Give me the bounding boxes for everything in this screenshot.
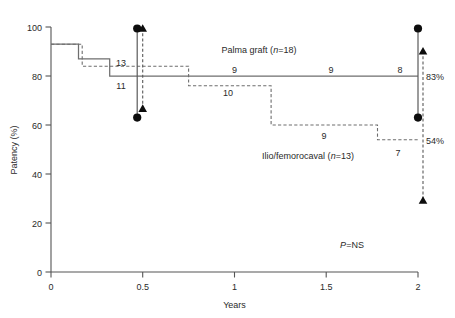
y-tick-label-0: 0 [37, 268, 42, 278]
x-tick-label-1p5: 1.5 [320, 282, 333, 292]
x-tick-label-0: 0 [48, 282, 53, 292]
errorbar-palma-2 [414, 24, 422, 121]
marker-triangle-ilio-0p5-lower [138, 104, 147, 112]
p-value-rest: =NS [346, 240, 364, 250]
y-tick-label-80: 80 [32, 72, 42, 82]
kaplan-meier-patency-figure: 100 80 60 40 20 0 Patency (%) 0 0.5 1 1.… [0, 0, 455, 318]
x-tick-label-0p5: 0.5 [136, 282, 149, 292]
at-risk-ilio-2: 10 [223, 88, 233, 98]
endpoint-label-palma: 83% [426, 72, 444, 82]
marker-triangle-ilio-2-lower [419, 196, 428, 204]
at-risk-palma-3: 9 [328, 65, 333, 75]
at-risk-palma-4: 8 [397, 65, 402, 75]
y-tick-label-20: 20 [32, 219, 42, 229]
y-axis-title: Patency (%) [9, 125, 19, 174]
x-axis: 0 0.5 1 1.5 2 Years [48, 272, 420, 310]
ilio-label-prefix: Ilio/femorocaval ( [262, 151, 331, 161]
chart-canvas: 100 80 60 40 20 0 Patency (%) 0 0.5 1 1.… [0, 0, 455, 318]
at-risk-ilio-3: 9 [321, 131, 326, 141]
palma-label-prefix: Palma graft ( [222, 45, 274, 55]
palma-label-suffix: =18) [278, 45, 296, 55]
x-axis-title: Years [223, 300, 246, 310]
x-tick-label-2: 2 [415, 282, 420, 292]
at-risk-numbers-ilio: 11 10 9 7 [116, 81, 400, 158]
errorbar-palma-0p5 [133, 24, 141, 121]
ilio-label-suffix: =13) [336, 151, 354, 161]
at-risk-palma-2: 9 [232, 65, 237, 75]
y-tick-label-100: 100 [27, 23, 42, 33]
series-label-ilio-femorocaval: Ilio/femorocaval (n=13) [262, 151, 354, 161]
x-tick-label-1: 1 [232, 282, 237, 292]
svg-text:Palma graft (n=18): Palma graft (n=18) [222, 45, 297, 55]
svg-text:Ilio/femorocaval (n=13): Ilio/femorocaval (n=13) [262, 151, 354, 161]
series-label-palma-graft: Palma graft (n=18) [222, 45, 297, 55]
y-tick-label-40: 40 [32, 170, 42, 180]
endpoint-label-ilio: 54% [426, 136, 444, 146]
at-risk-ilio-4: 7 [395, 148, 400, 158]
marker-circle-palma-2-lower [414, 114, 422, 122]
at-risk-palma-1: 13 [116, 58, 126, 68]
marker-circle-palma-2-upper [414, 24, 422, 32]
at-risk-ilio-1: 11 [116, 81, 125, 91]
marker-triangle-ilio-2-upper [419, 47, 428, 55]
y-axis: 100 80 60 40 20 0 Patency (%) [9, 23, 51, 278]
y-tick-label-60: 60 [32, 121, 42, 131]
p-value-annotation: P=NS [340, 240, 364, 250]
marker-circle-palma-0p5-lower [133, 114, 141, 122]
errorbar-ilio-0p5 [138, 24, 147, 112]
